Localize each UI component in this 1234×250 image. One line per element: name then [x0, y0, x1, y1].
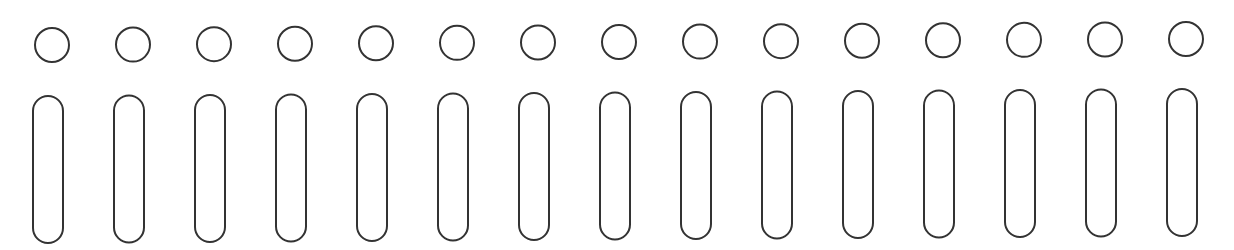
pill-shape — [357, 94, 387, 241]
circle-shape — [278, 27, 312, 61]
circle-shape — [764, 24, 798, 58]
circle-shape — [521, 25, 555, 59]
pill-shape — [195, 95, 225, 242]
circle-shape — [602, 25, 636, 59]
pill-shape — [438, 94, 468, 241]
pill-shape — [114, 96, 144, 243]
pill-shape — [1086, 90, 1116, 237]
circle-shape — [359, 26, 393, 60]
pill-shape — [1005, 90, 1035, 237]
circle-shape — [440, 26, 474, 60]
pill-shape — [843, 91, 873, 238]
pill-shape — [924, 91, 954, 238]
pill-shape — [762, 92, 792, 239]
circle-shape — [1088, 22, 1122, 56]
pill-shape — [33, 96, 63, 243]
circle-shape — [1169, 22, 1203, 56]
circle-shape — [1007, 23, 1041, 57]
circle-shape — [926, 23, 960, 57]
pill-shape — [600, 93, 630, 240]
pill-shape — [1167, 89, 1197, 236]
circle-shape — [35, 28, 69, 62]
circle-shape — [845, 24, 879, 58]
circle-shape — [683, 25, 717, 59]
circle-row — [35, 22, 1203, 62]
pill-row — [33, 89, 1197, 243]
circle-shape — [197, 27, 231, 61]
pill-shape — [519, 93, 549, 240]
pill-shape — [276, 95, 306, 242]
shapes-canvas — [0, 0, 1234, 250]
pill-shape — [681, 92, 711, 239]
circle-shape — [116, 28, 150, 62]
